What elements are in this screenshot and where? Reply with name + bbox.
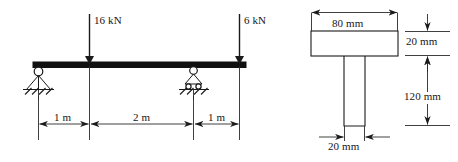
figure-canvas: 16 kN 6 kN 1 m 2 m 1 m 80 mm 20 mm 120 m… [0,0,458,162]
load-label-16kn: 16 kN [94,15,122,26]
load-arrow-16kn [85,14,94,65]
dimension-web-thickness [319,126,390,141]
dimension-label-web-height: 120 mm [404,91,441,102]
dimension-label-web-thickness: 20 mm [328,141,359,152]
load-arrow-6kn [235,14,244,65]
dimension-label-1m-right: 1 m [208,112,225,123]
t-section-outline [311,31,398,126]
pin-support-left [23,67,54,100]
load-label-6kn: 6 kN [244,15,266,26]
dimension-extension-lines [39,66,240,140]
dimension-label-flange-width: 80 mm [332,18,363,29]
roller-support-right [179,67,209,100]
beam-member [33,62,246,68]
figure-vector-layer [0,0,458,162]
dimension-label-2m: 2 m [133,112,150,123]
dimension-label-flange-thickness: 20 mm [406,36,437,47]
dimension-label-1m-left: 1 m [54,112,71,123]
